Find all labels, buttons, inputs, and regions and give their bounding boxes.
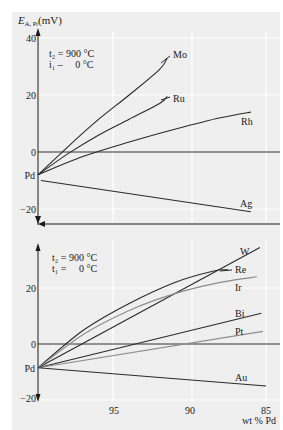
y-tick-label: 0: [31, 339, 36, 350]
y-tick-label: −20: [20, 204, 36, 215]
y-tick-label: 20: [26, 90, 36, 101]
annotation-t2: t₂ = 900 °C: [49, 48, 94, 59]
series-label-w: W: [240, 246, 250, 257]
origin-label: Pd: [24, 170, 35, 181]
series-label-mo: Mo: [173, 49, 187, 60]
series-label-pt: Pt: [235, 326, 244, 337]
series-label-ru: Ru: [173, 93, 185, 104]
series-label-bi: Bi: [235, 308, 245, 319]
y-axis-label: EA, Pt(mV): [17, 14, 62, 27]
x-tick-label: 90: [185, 405, 195, 416]
series-label-rh: Rh: [241, 116, 253, 127]
annotation-t1: i₁ – 0 °C: [49, 59, 94, 70]
series-label-re: Re: [235, 264, 247, 275]
x-axis-label: wt % Pd: [242, 415, 276, 426]
origin-label: Pd: [24, 363, 35, 374]
y-tick-label: 40: [26, 33, 36, 44]
y-tick-label: −20: [20, 393, 36, 404]
annotation-t2: t₂ = 900 °C: [52, 252, 97, 263]
chart-canvas: EA, Pt(mV) 40200−20Pd MoRuRhAg t₂ = 900 …: [0, 0, 283, 430]
series-label-ir: Ir: [235, 282, 242, 293]
series-label-ag: Ag: [240, 198, 252, 209]
x-tick-label: 95: [109, 405, 119, 416]
annotation-t1: t₁ = 0 °C: [52, 263, 97, 274]
y-tick-label: 20: [26, 283, 36, 294]
series-label-au: Au: [235, 372, 247, 383]
y-tick-label: 0: [31, 147, 36, 158]
plot-background: [12, 12, 280, 430]
thermocouple-emf-figure: EA, Pt(mV) 40200−20Pd MoRuRhAg t₂ = 900 …: [0, 0, 283, 430]
